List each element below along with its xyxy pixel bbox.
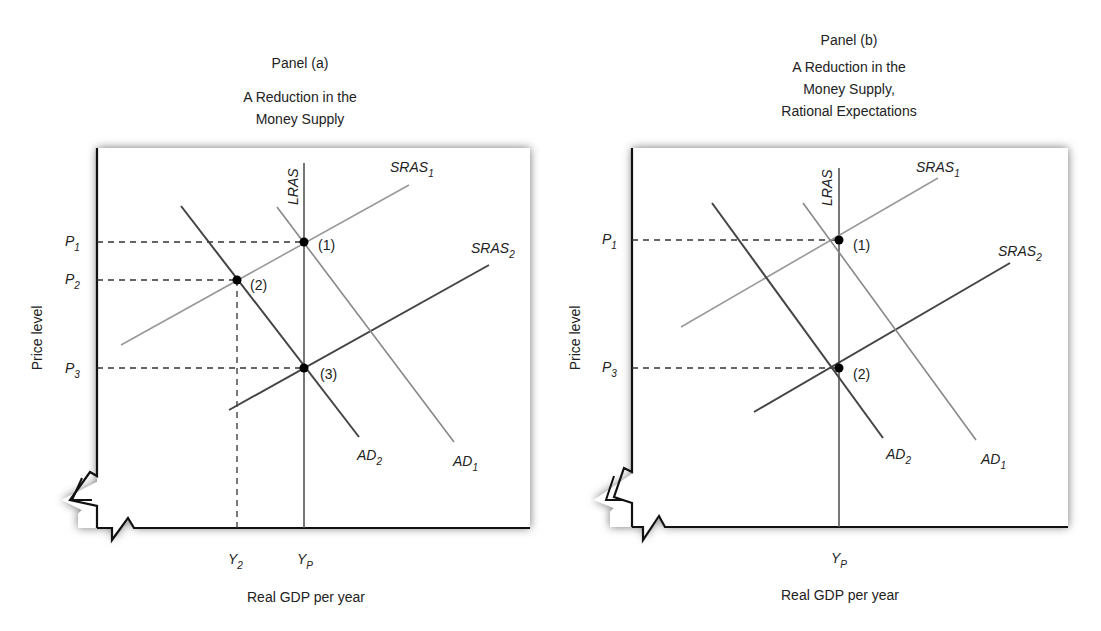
panel-a-point-2 <box>233 276 242 285</box>
panel-b-title-line-1: A Reduction in the <box>792 59 906 75</box>
panel-b-title-line-3: Rational Expectations <box>781 103 916 119</box>
panel-b-yp-label: YP <box>831 550 847 570</box>
panel-b-lras-label: LRAS <box>819 169 835 206</box>
panel-a-frame <box>62 148 530 540</box>
panel-a-point-2-label: (2) <box>250 277 267 293</box>
panel-b-point-2 <box>835 364 844 373</box>
panel-a-p3-label: P3 <box>65 360 80 380</box>
panel-b-label: Panel (b) <box>821 32 878 48</box>
panel-a-x-axis-title: Real GDP per year <box>247 589 365 605</box>
panel-b: Panel (b) A Reduction in the Money Suppl… <box>567 32 1068 603</box>
panel-b-point-2-label: (2) <box>853 366 870 382</box>
panel-b-p1-label: P1 <box>602 231 617 251</box>
panel-a-point-3-label: (3) <box>320 366 337 382</box>
panel-a-p1-label: P1 <box>65 233 80 253</box>
panel-b-y-axis <box>614 148 632 527</box>
panel-a-label: Panel (a) <box>272 55 329 71</box>
panel-a-point-1 <box>300 238 309 247</box>
panel-b-title-line-2: Money Supply, <box>803 81 895 97</box>
panel-a-title-line-1: A Reduction in the <box>243 89 357 105</box>
panel-a-point-1-label: (1) <box>318 237 335 253</box>
panel-a-yp-label: YP <box>297 551 313 571</box>
panel-a-y2-label: Y2 <box>228 551 243 571</box>
panel-a-y-axis-title: Price level <box>29 306 45 371</box>
panel-b-p3-label: P3 <box>602 359 617 379</box>
panel-a-p2-label: P2 <box>65 271 80 291</box>
panel-b-point-1 <box>835 236 844 245</box>
panel-a-lras-label: LRAS <box>285 168 301 205</box>
panel-b-point-1-label: (1) <box>853 237 870 253</box>
panel-b-x-axis-title: Real GDP per year <box>781 587 899 603</box>
panel-a-title-line-2: Money Supply <box>256 111 345 127</box>
figure: Panel (a) A Reduction in the Money Suppl… <box>0 0 1101 631</box>
panel-b-y-axis-title: Price level <box>567 306 583 371</box>
panel-a-y-axis <box>70 148 97 528</box>
panel-a-point-3 <box>300 364 309 373</box>
panel-a: Panel (a) A Reduction in the Money Suppl… <box>29 55 530 605</box>
